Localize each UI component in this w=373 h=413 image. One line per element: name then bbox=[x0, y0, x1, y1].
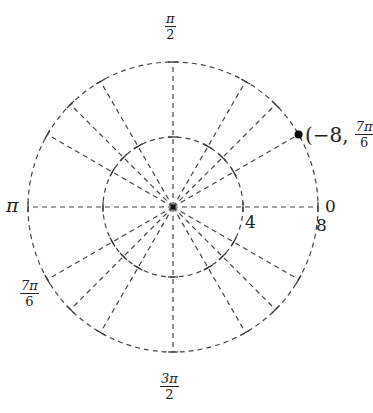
tick-mark bbox=[231, 168, 236, 177]
tick-mark bbox=[134, 144, 143, 149]
ray-120 bbox=[101, 81, 174, 207]
ray-60 bbox=[173, 81, 246, 207]
ray-300 bbox=[173, 207, 246, 333]
ray-240 bbox=[101, 207, 174, 333]
ray-150 bbox=[47, 135, 173, 208]
ray-135 bbox=[70, 104, 173, 207]
tick-mark bbox=[110, 168, 115, 177]
plotted-point bbox=[295, 131, 303, 139]
point-label-angle: 7π 6 bbox=[355, 120, 373, 149]
label-three-half-pi: 3π 2 bbox=[160, 372, 179, 401]
label-r4: 4 bbox=[245, 212, 256, 232]
ray-330 bbox=[173, 207, 299, 280]
tick-mark bbox=[45, 130, 50, 139]
tick-mark bbox=[96, 79, 105, 84]
tick-mark bbox=[241, 79, 250, 84]
tick-mark bbox=[67, 306, 74, 313]
tick-mark bbox=[296, 275, 301, 284]
tick-mark bbox=[45, 275, 50, 284]
ray-210 bbox=[47, 207, 173, 280]
tick-mark bbox=[204, 144, 213, 149]
ray-315 bbox=[173, 207, 276, 310]
ray-225 bbox=[70, 207, 173, 310]
ray-45 bbox=[173, 104, 276, 207]
ray-30 bbox=[173, 135, 299, 208]
tick-mark bbox=[134, 265, 143, 270]
label-pi: π bbox=[6, 194, 19, 216]
tick-mark bbox=[241, 330, 250, 335]
tick-mark bbox=[231, 238, 236, 247]
tick-mark bbox=[272, 306, 279, 313]
tick-mark bbox=[110, 238, 115, 247]
label-seven-pi-six: 7π 6 bbox=[20, 279, 39, 308]
label-r8: 8 bbox=[316, 215, 327, 235]
origin-point bbox=[171, 205, 176, 210]
label-half-pi: π 2 bbox=[165, 12, 176, 41]
tick-mark bbox=[272, 101, 279, 108]
tick-mark bbox=[67, 101, 74, 108]
point-label: (−8, 7π 6 bbox=[305, 120, 373, 149]
point-label-prefix: (−8, bbox=[305, 123, 349, 147]
tick-mark bbox=[204, 265, 213, 270]
label-zero: 0 bbox=[325, 196, 336, 216]
tick-mark bbox=[96, 330, 105, 335]
